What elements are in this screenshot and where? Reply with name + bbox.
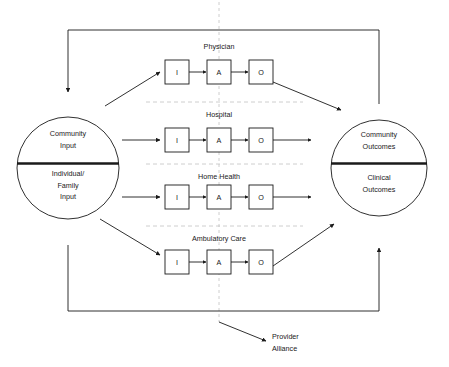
provider-alliance-annotation: Provider Alliance	[272, 331, 299, 354]
input-circle-bottom-line2: Family	[52, 180, 84, 192]
arrow-input-to-physician	[105, 72, 160, 106]
stage-title-hospital: Hospital	[206, 110, 232, 119]
ambulatory-box-A-label: A	[217, 258, 222, 267]
input-circle-bottom-label: Individual/ Family Input	[52, 168, 84, 203]
outcome-circle-bottom-label: Clinical Outcomes	[363, 172, 396, 195]
physician-box-O-label: O	[258, 68, 264, 77]
stage-title-physician: Physician	[204, 42, 235, 51]
stage-title-ambulatory-care: Ambulatory Care	[192, 234, 246, 243]
provider-alliance-line1: Provider	[272, 331, 299, 343]
arrow-input-to-ambulatory	[100, 219, 160, 255]
input-circle-bottom-line3: Input	[52, 191, 84, 203]
outcome-circle-bottom-line2: Outcomes	[363, 184, 396, 196]
provider-alliance-line2: Alliance	[272, 343, 299, 355]
stage-title-home-health: Home Health	[198, 172, 240, 181]
ambulatory-box-I-label: I	[176, 258, 178, 267]
home-health-box-O-label: O	[258, 193, 264, 202]
hospital-box-O-label: O	[258, 136, 264, 145]
outcome-circle-top-line2: Outcomes	[361, 141, 397, 153]
outcome-circle-top-label: Community Outcomes	[361, 129, 397, 152]
hospital-box-I-label: I	[176, 136, 178, 145]
provider-alliance-pointer	[219, 322, 266, 341]
input-circle-bottom-line1: Individual/	[52, 168, 84, 180]
physician-box-I-label: I	[176, 68, 178, 77]
input-circle-top-line2: Input	[50, 140, 86, 152]
input-circle-top-line1: Community	[50, 128, 86, 140]
outcome-circle-bottom-line1: Clinical	[363, 172, 396, 184]
home-health-box-I-label: I	[176, 193, 178, 202]
ambulatory-box-O-label: O	[258, 258, 264, 267]
home-health-box-A-label: A	[217, 193, 222, 202]
diagram-canvas: Community Input Individual/ Family Input…	[0, 0, 449, 367]
physician-box-A-label: A	[217, 68, 222, 77]
input-circle-top-label: Community Input	[50, 128, 86, 151]
outcome-circle-top-line1: Community	[361, 129, 397, 141]
arrow-physician-to-outcome	[273, 82, 341, 110]
hospital-box-A-label: A	[217, 136, 222, 145]
arrow-ambulatory-to-outcome	[273, 224, 334, 266]
